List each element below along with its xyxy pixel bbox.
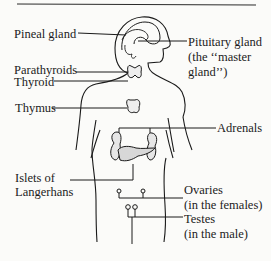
label-testes: Testes [184, 212, 215, 226]
label-ovaries: Ovaries [184, 183, 223, 197]
thymus-gland [127, 100, 140, 113]
body-outline [76, 17, 192, 242]
label-adrenals: Adrenals [217, 121, 262, 135]
testes [126, 205, 183, 244]
label-testes-line2: (in the male) [184, 227, 248, 241]
thyroid-gland [128, 65, 142, 77]
label-thyroid: Thyroid [14, 75, 54, 89]
islets-leader [70, 164, 133, 180]
label-pituitary-gland: Pituitary gland [188, 35, 262, 49]
adrenals-leaders [119, 128, 216, 133]
adrenals-and-pancreas [111, 132, 157, 161]
label-islets-of-langerhans: Islets of [15, 171, 55, 185]
label-pituitary-gland-line2: (the ‘‘master [188, 50, 251, 64]
ovaries [117, 189, 183, 198]
label-islets-of-langerhans-line2: Langerhans [15, 185, 73, 199]
label-pituitary-gland-line3: gland’’) [188, 65, 227, 79]
label-ovaries-line2: (in the females) [184, 198, 262, 212]
label-pineal-gland: Pineal gland [14, 27, 76, 41]
label-thymus: Thymus [15, 101, 56, 115]
top-rule [17, 4, 256, 5]
